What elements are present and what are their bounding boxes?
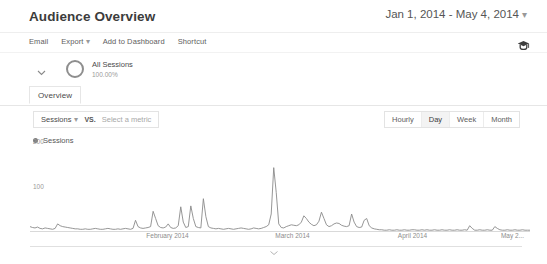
action-toolbar: Email Export▾ Add to Dashboard Shortcut	[0, 32, 547, 53]
date-range-selector[interactable]: Jan 1, 2014 - May 4, 2014▾	[385, 8, 527, 20]
granularity-month-button[interactable]: Month	[484, 112, 519, 127]
email-button-label: Email	[29, 37, 48, 46]
granularity-button-group: Hourly Day Week Month	[384, 111, 520, 128]
x-axis-tick-may: May 2...	[501, 232, 524, 239]
segment-donut-icon	[66, 60, 84, 78]
tab-overview[interactable]: Overview	[29, 86, 81, 104]
primary-metric-dropdown[interactable]: Sessions▾	[41, 115, 78, 124]
granularity-week-button[interactable]: Week	[450, 112, 484, 127]
primary-metric-label: Sessions	[41, 115, 71, 124]
shortcut-button[interactable]: Shortcut	[178, 37, 207, 46]
granularity-day-button[interactable]: Day	[422, 112, 450, 127]
date-range-label: Jan 1, 2014 - May 4, 2014	[385, 8, 519, 20]
export-button-label: Export	[61, 37, 83, 46]
add-to-dashboard-button[interactable]: Add to Dashboard	[103, 37, 165, 46]
chevron-down-icon: ▾	[86, 37, 90, 46]
chevron-down-icon[interactable]	[36, 64, 47, 75]
segment-bar: All Sessions 100.00%	[0, 52, 547, 87]
sessions-series-line	[30, 168, 530, 231]
page-header: Audience Overview Jan 1, 2014 - May 4, 2…	[0, 0, 547, 32]
segment-percent: 100.00%	[92, 70, 133, 79]
chevron-down-icon: ▾	[74, 115, 78, 124]
segment-info[interactable]: All Sessions 100.00%	[92, 60, 133, 79]
email-button[interactable]: Email	[29, 37, 48, 46]
toolbar-items: Email Export▾ Add to Dashboard Shortcut	[29, 37, 206, 46]
sessions-line-svg	[30, 142, 530, 232]
granularity-hourly-button[interactable]: Hourly	[385, 112, 422, 127]
chevron-down-icon: ▾	[522, 9, 527, 20]
chart-plot-area[interactable]	[30, 142, 530, 232]
shortcut-button-label: Shortcut	[178, 37, 207, 46]
vs-label: VS.	[84, 116, 95, 123]
analytics-audience-overview-page: Audience Overview Jan 1, 2014 - May 4, 2…	[0, 0, 547, 264]
x-axis-tick-april: April 2014	[398, 232, 427, 239]
tab-bar: Overview	[0, 86, 547, 106]
graduation-cap-icon[interactable]	[517, 37, 530, 48]
add-to-dashboard-label: Add to Dashboard	[103, 37, 165, 46]
tab-overview-label: Overview	[38, 91, 72, 100]
page-title: Audience Overview	[29, 9, 155, 24]
export-button[interactable]: Export▾	[61, 37, 89, 46]
sessions-chart: Sessions 200 100 February 2014 March 201…	[0, 134, 547, 244]
segment-name: All Sessions	[92, 60, 133, 70]
metric-selector: Sessions▾ VS. Select a metric	[33, 111, 159, 128]
chevron-down-icon[interactable]	[268, 243, 280, 251]
secondary-metric-dropdown[interactable]: Select a metric	[102, 115, 152, 124]
x-axis-tick-march: March 2014	[275, 232, 309, 239]
x-axis-tick-february: February 2014	[146, 232, 188, 239]
metric-selector-row: Sessions▾ VS. Select a metric Hourly Day…	[0, 110, 547, 132]
